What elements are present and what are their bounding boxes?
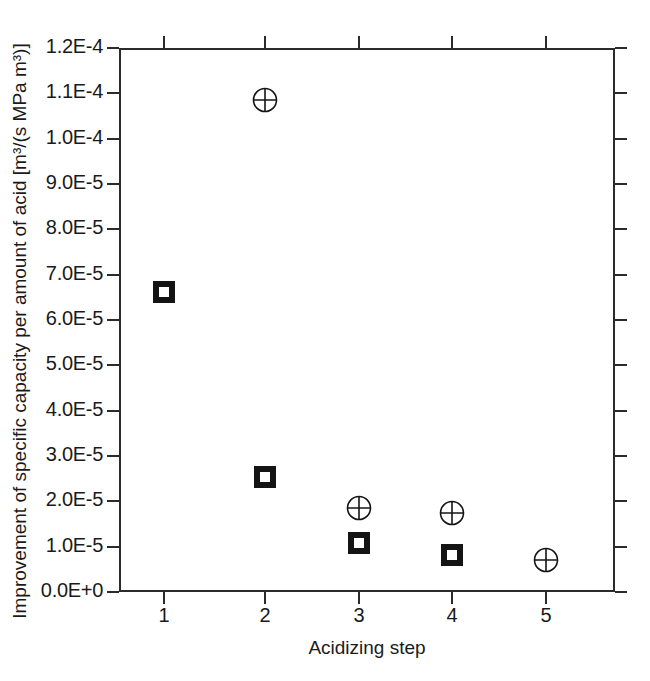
x-axis-tick-label: 1 (144, 604, 184, 627)
y-axis-label-container: Improvement of specific capacity per amo… (0, 0, 40, 681)
y-axis-tick-mark-right (615, 364, 627, 366)
y-axis-tick-mark (107, 47, 119, 49)
y-axis-tick-mark (107, 92, 119, 94)
y-axis-tick-mark-right (615, 500, 627, 502)
circle-cross-marker-icon (252, 87, 279, 114)
y-axis-tick-mark (107, 591, 119, 593)
x-axis-tick-mark-top (264, 36, 266, 48)
y-axis-tick-mark (107, 183, 119, 185)
y-axis-tick-mark-right (615, 47, 627, 49)
y-axis-label: Improvement of specific capacity per amo… (9, 6, 31, 656)
square-marker-icon (441, 544, 463, 566)
x-axis-tick-mark (358, 592, 360, 604)
x-axis-tick-mark-top (545, 36, 547, 48)
y-axis-tick-mark-right (615, 410, 627, 412)
y-axis-tick-mark-right (615, 183, 627, 185)
y-axis-tick-mark (107, 455, 119, 457)
y-axis-tick-mark-right (615, 319, 627, 321)
y-axis-tick-mark (107, 274, 119, 276)
y-axis-tick-mark-right (615, 228, 627, 230)
y-axis-tick-mark-right (615, 274, 627, 276)
x-axis-tick-mark-top (358, 36, 360, 48)
y-axis-tick-mark (107, 319, 119, 321)
y-axis-tick-mark-right (615, 591, 627, 593)
y-axis-tick-mark (107, 500, 119, 502)
circle-cross-marker-icon (439, 500, 466, 527)
square-marker-icon (348, 532, 370, 554)
y-axis-tick-mark (107, 546, 119, 548)
y-axis-tick-mark-right (615, 546, 627, 548)
x-axis-label: Acidizing step (119, 637, 615, 659)
x-axis-tick-mark (264, 592, 266, 604)
scatter-plot-figure: 1.2E-41.1E-41.0E-49.0E-58.0E-57.0E-56.0E… (0, 0, 650, 681)
y-axis-tick-mark (107, 138, 119, 140)
x-axis-tick-mark (545, 592, 547, 604)
x-axis-tick-mark-top (451, 36, 453, 48)
circle-cross-marker-icon (533, 546, 560, 573)
y-axis-tick-mark-right (615, 138, 627, 140)
x-axis-tick-label: 5 (526, 604, 566, 627)
y-axis-tick-mark (107, 228, 119, 230)
y-axis-tick-mark-right (615, 455, 627, 457)
x-axis-tick-mark (163, 592, 165, 604)
x-axis-tick-mark (451, 592, 453, 604)
x-axis-tick-mark-top (163, 36, 165, 48)
x-axis-tick-label: 2 (245, 604, 285, 627)
y-axis-tick-mark (107, 410, 119, 412)
y-axis-tick-mark-right (615, 92, 627, 94)
x-axis-tick-label: 3 (339, 604, 379, 627)
y-axis-tick-mark (107, 364, 119, 366)
square-marker-icon (254, 466, 276, 488)
x-axis-tick-label: 4 (432, 604, 472, 627)
square-marker-icon (153, 281, 175, 303)
circle-cross-marker-icon (346, 495, 373, 522)
